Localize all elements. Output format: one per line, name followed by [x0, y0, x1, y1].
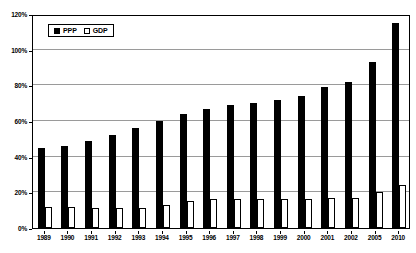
bar-gdp — [210, 199, 217, 228]
bar-group — [293, 16, 317, 228]
bar-group — [387, 16, 410, 228]
bar-gdp — [399, 185, 406, 228]
y-tick-label: 0% — [18, 226, 27, 233]
hollow-square-icon — [84, 28, 90, 34]
bar-ppp — [109, 135, 116, 228]
bar-group — [364, 16, 388, 228]
bar-group — [222, 16, 246, 228]
bar-ppp — [298, 96, 305, 228]
bar-ppp — [156, 121, 163, 228]
x-tick-label: 1993 — [131, 235, 145, 242]
bar-group — [151, 16, 175, 228]
bar-chart: 0%20%40%60%80%100%120% 19891990199119921… — [0, 0, 416, 253]
legend-label: GDP — [93, 27, 108, 34]
chart-legend: PPPGDP — [48, 24, 114, 37]
bar-gdp — [68, 207, 75, 228]
x-tick-label: 1990 — [61, 235, 75, 242]
bar-group — [104, 16, 128, 228]
x-tick-label: 1998 — [250, 235, 264, 242]
bar-gdp — [116, 208, 123, 228]
x-tick-label: 2010 — [391, 235, 405, 242]
bar-ppp — [180, 114, 187, 228]
bars-layer — [33, 16, 409, 228]
y-tick-label: 120% — [11, 12, 27, 19]
x-tick-label: 1995 — [179, 235, 193, 242]
bar-ppp — [345, 82, 352, 228]
bar-gdp — [352, 198, 359, 228]
bar-ppp — [38, 148, 45, 228]
bar-group — [317, 16, 341, 228]
bar-gdp — [257, 199, 264, 228]
bar-group — [33, 16, 57, 228]
legend-item-ppp: PPP — [54, 27, 77, 34]
x-tick-label: 2002 — [344, 235, 358, 242]
bar-gdp — [305, 199, 312, 228]
bar-gdp — [376, 192, 383, 228]
x-tick-label: 2000 — [297, 235, 311, 242]
bar-ppp — [369, 62, 376, 228]
y-axis: 0%20%40%60%80%100%120% — [0, 0, 32, 253]
legend-item-gdp: GDP — [84, 27, 108, 34]
x-tick-label: 1997 — [226, 235, 240, 242]
x-tick-label: 1999 — [273, 235, 287, 242]
x-tick-label: 2005 — [368, 235, 382, 242]
bar-ppp — [61, 146, 68, 228]
bar-gdp — [45, 207, 52, 228]
bar-ppp — [85, 141, 92, 228]
x-tick-label: 1994 — [155, 235, 169, 242]
bar-group — [246, 16, 270, 228]
bar-gdp — [328, 198, 335, 228]
bar-ppp — [132, 128, 139, 228]
bar-gdp — [281, 199, 288, 228]
x-tick-label: 1991 — [84, 235, 98, 242]
bar-group — [269, 16, 293, 228]
bar-ppp — [203, 109, 210, 228]
y-tick-label: 80% — [15, 83, 27, 90]
legend-label: PPP — [63, 27, 77, 34]
bar-group — [57, 16, 81, 228]
bar-group — [175, 16, 199, 228]
bar-ppp — [227, 105, 234, 228]
bar-group — [128, 16, 152, 228]
bar-group — [80, 16, 104, 228]
bar-ppp — [250, 103, 257, 228]
bar-group — [198, 16, 222, 228]
x-tick-label: 2001 — [320, 235, 334, 242]
bar-gdp — [92, 208, 99, 228]
y-tick-mark — [29, 229, 32, 230]
bar-gdp — [234, 199, 241, 228]
plot-area — [32, 15, 410, 229]
y-tick-label: 100% — [11, 47, 27, 54]
bar-group — [340, 16, 364, 228]
bar-gdp — [187, 201, 194, 228]
y-tick-label: 20% — [15, 190, 27, 197]
x-tick-label: 1996 — [202, 235, 216, 242]
x-tick-label: 1992 — [108, 235, 122, 242]
bar-ppp — [321, 87, 328, 228]
y-tick-label: 60% — [15, 119, 27, 126]
filled-square-icon — [54, 28, 60, 34]
bar-gdp — [163, 205, 170, 228]
x-axis: 1989199019911992199319941995199619971998… — [32, 231, 410, 253]
bar-gdp — [139, 208, 146, 228]
bar-ppp — [274, 100, 281, 228]
bar-ppp — [392, 23, 399, 228]
y-tick-label: 40% — [15, 154, 27, 161]
x-tick-label: 1989 — [37, 235, 51, 242]
